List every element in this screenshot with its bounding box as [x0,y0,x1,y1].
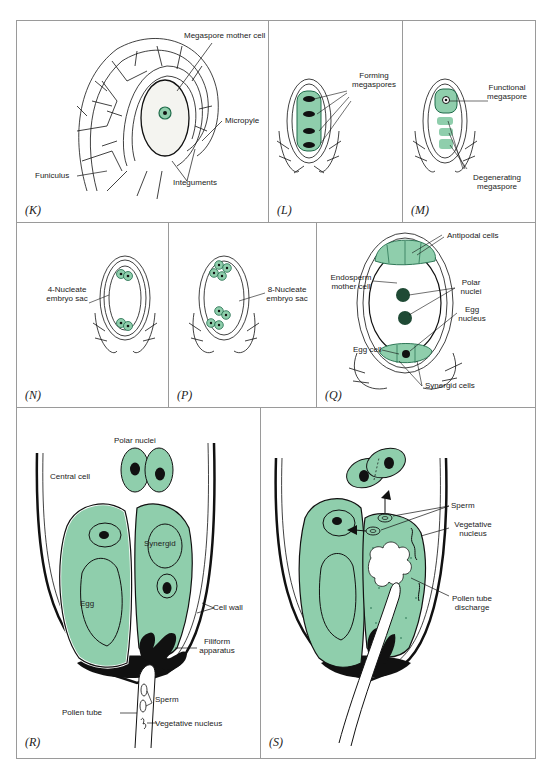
label-filiform-apparatus: Filiform apparatus [197,637,237,655]
label-central-cell: Central cell [50,472,90,481]
label-integuments: Integuments [173,178,217,187]
label-funiculus: Funiculus [35,171,69,180]
functional-megaspore-drawing [403,21,537,224]
label-sperm-r: Sperm [155,695,179,704]
label-polar-nuclei-r: Polar nuclei [114,436,156,445]
panel-label-r: (R) [25,735,40,750]
label-egg-cell: Egg cell [353,345,381,354]
panel-label-q: (Q) [325,388,342,403]
panel-label-p: (P) [177,388,192,403]
panel-label-l: (L) [277,203,292,218]
label-micropyle: Micropyle [225,116,259,125]
panel-q: Antipodal cells Endosperm mother cell Po… [316,222,536,408]
label-antipodal-cells: Antipodal cells [447,231,499,240]
label-sperm-s: Sperm [451,501,475,510]
panel-m: Functional megaspore Degenerating megasp… [402,20,536,223]
label-endosperm-mother-cell: Endosperm mother cell [329,273,373,291]
label-8-nucleate-embryo-sac: 8-Nucleate embryo sac [265,285,309,303]
label-synergid: Synergid [144,539,176,548]
panel-label-k: (K) [25,203,41,218]
embryo-sac-before-fertilization-drawing [17,408,262,760]
label-vegetative-nucleus-s: Vegetative nucleus [449,520,497,538]
forming-megaspores-drawing [269,21,404,224]
label-egg: Egg [80,599,94,608]
label-pollen-tube-discharge: Pollen tube discharge [447,594,497,612]
panel-k: Megaspore mother cell Micropyle Funiculu… [16,20,269,223]
panel-n: 4-Nucleate embryo sac (N) [16,222,169,408]
panel-p: 8-Nucleate embryo sac (P) [168,222,317,408]
label-megaspore-mother-cell: Megaspore mother cell [184,31,265,40]
four-nucleate-embryo-sac-drawing [17,223,170,409]
label-cell-wall: Cell wall [213,603,243,612]
panel-s: Sperm Vegetative nucleus Pollen tube dis… [260,407,536,759]
panel-r: Polar nuclei Central cell Synergid Egg C… [16,407,261,759]
panel-l: Forming megaspores (L) [268,20,403,223]
panel-label-m: (M) [411,203,429,218]
label-egg-nucleus: Egg nucleus [455,305,489,323]
label-vegetative-nucleus-r: Vegetative nucleus [155,719,222,728]
eight-nucleate-embryo-sac-drawing [169,223,318,409]
panel-label-n: (N) [25,388,41,403]
label-4-nucleate-embryo-sac: 4-Nucleate embryo sac [45,285,89,303]
pollen-tube-discharge-drawing [261,408,537,760]
label-degenerating-megaspore: Degenerating megaspore [465,173,529,191]
label-pollen-tube-r: Pollen tube [62,708,102,717]
label-synergid-cells: Synergid cells [425,381,475,390]
label-polar-nuclei: Polar nuclei [457,278,485,296]
label-forming-megaspores: Forming megaspores [349,71,399,89]
label-functional-megaspore: Functional megaspore [481,83,533,101]
panel-label-s: (S) [269,735,283,750]
